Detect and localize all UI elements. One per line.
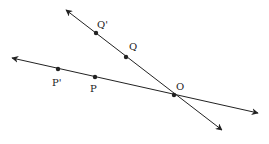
point-Q [124,55,128,59]
label-O: O [176,81,184,92]
point-O [172,93,176,97]
label-P: P [90,83,97,94]
geometry-diagram: OPP'QQ' [0,0,269,144]
label-Q-prime: Q' [97,19,108,30]
point-Q-prime [94,31,98,35]
line-OP [12,58,258,113]
label-Q: Q [129,41,137,52]
label-P-prime: P' [52,77,61,88]
point-P-prime [56,67,60,71]
diagram-svg: OPP'QQ' [0,0,269,144]
point-P [93,75,97,79]
line-OQ [66,10,222,130]
